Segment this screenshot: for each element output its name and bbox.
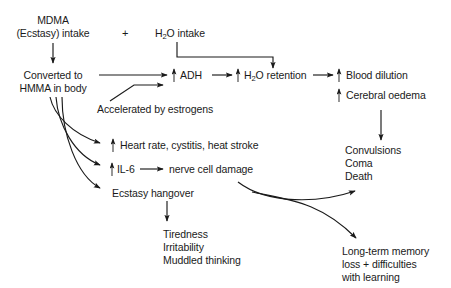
h2o-retention-post: O retention xyxy=(256,69,307,81)
node-coma: Coma xyxy=(345,157,373,169)
node-mdma-line2: (Ecstasy) intake xyxy=(16,27,89,39)
node-il6: IL-6 xyxy=(117,163,135,175)
arrow-hmma-to-hangover xyxy=(62,97,100,188)
node-blood-dilution: Blood dilution xyxy=(346,69,408,81)
node-tiredness: Tiredness xyxy=(163,228,208,240)
h2o-intake-post: O intake xyxy=(167,27,205,39)
node-nerve-cell-damage: nerve cell damage xyxy=(169,163,253,175)
flowchart-canvas: MDMA (Ecstasy) intake + H2O intake Conve… xyxy=(0,0,451,288)
node-h2o-retention: H2O retention xyxy=(244,69,306,83)
node-convulsions: Convulsions xyxy=(345,144,401,156)
node-ecstasy-hangover: Ecstasy hangover xyxy=(112,187,194,199)
arrow-h2o-intake-to-retention xyxy=(177,42,273,68)
node-converted-line1: Converted to xyxy=(24,69,83,81)
h2o-intake-subscript: 2 xyxy=(162,32,166,41)
node-muddled-thinking: Muddled thinking xyxy=(163,254,241,266)
node-longterm-memory-line2: loss + difficulties xyxy=(342,258,417,270)
node-adh: ADH xyxy=(180,69,202,81)
arrow-nerve-damage-to-convulsions xyxy=(238,182,355,200)
h2o-retention-subscript: 2 xyxy=(251,74,255,83)
arrow-hmma-to-heart-rate xyxy=(50,97,100,143)
arrow-estrogens-to-adh xyxy=(110,85,163,101)
node-longterm-memory-line3: with learning xyxy=(342,271,400,283)
node-heart-rate: Heart rate, cystitis, heat stroke xyxy=(120,139,259,151)
node-mdma-line1: MDMA xyxy=(37,14,69,26)
arrow-nerve-damage-to-memory xyxy=(252,192,356,238)
plus-operator: + xyxy=(122,27,128,39)
node-accelerated-by-estrogens: Accelerated by estrogens xyxy=(97,103,213,115)
node-converted-line2: HMMA in body xyxy=(19,82,86,94)
node-longterm-memory-line1: Long-term memory xyxy=(342,245,429,257)
node-cerebral-oedema: Cerebral oedema xyxy=(346,89,426,101)
node-h2o-intake: H2O intake xyxy=(155,27,205,41)
node-death: Death xyxy=(345,170,373,182)
node-irritability: Irritability xyxy=(163,241,204,253)
